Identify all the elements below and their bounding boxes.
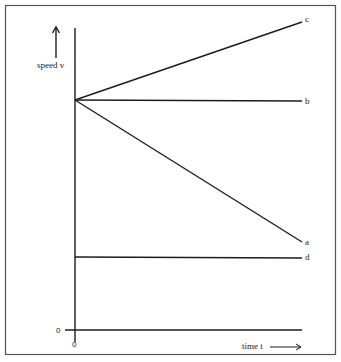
- origin-y-label: 0: [56, 326, 61, 335]
- line-d: [75, 257, 302, 258]
- line-a: [75, 100, 302, 242]
- line-b: [75, 100, 302, 101]
- y-axis-label: speed v: [37, 60, 65, 70]
- line-b-label: b: [305, 96, 310, 106]
- speed-arrow-icon: [53, 27, 60, 58]
- origin-x-label: 0: [72, 340, 77, 349]
- line-c-label: c: [305, 14, 309, 24]
- frame-border: [6, 6, 336, 355]
- speed-time-diagram: speed v c b a d 0 0 time t: [0, 0, 341, 362]
- line-c: [75, 22, 302, 100]
- x-axis-label: time t: [242, 341, 263, 351]
- line-a-label: a: [305, 237, 309, 247]
- time-arrow-icon: [270, 344, 301, 350]
- line-d-label: d: [305, 252, 310, 262]
